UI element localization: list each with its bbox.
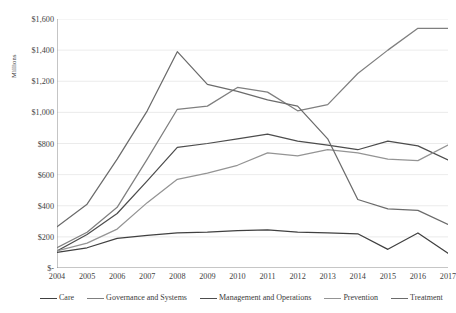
x-axis-tick-label: 2005 [79,272,95,281]
x-axis-tick-label: 2015 [380,272,396,281]
legend-line-swatch [40,298,57,299]
x-axis-tick-labels: 2004200520062007200820092010201120122013… [57,272,448,286]
legend-line-swatch [87,298,104,299]
x-axis-tick-label: 2011 [259,272,275,281]
plot-svg [57,19,448,268]
y-axis-tick-label: $1,200 [6,77,54,86]
y-axis-tick-label: $1,600 [6,15,54,24]
x-axis-tick-label: 2008 [169,272,185,281]
series-line-management-and-operations [57,134,448,251]
y-axis-tick-label: $1,400 [6,46,54,55]
x-axis-tick-label: 2006 [109,272,125,281]
legend-line-swatch [324,298,341,299]
plot-area [57,19,448,268]
legend-item-label: Care [59,293,74,303]
legend-item-label: Governance and Systems [106,293,187,303]
y-axis-tick-label: $400 [6,201,54,210]
x-axis-tick-label: 2004 [49,272,65,281]
chart-legend: CareGovernance and SystemsManagement and… [40,291,420,305]
x-axis-tick-label: 2017 [440,272,456,281]
y-axis-tick-label: $800 [6,139,54,148]
y-axis-tick-labels: $-$200$400$600$800$1,000$1,200$1,400$1,6… [0,19,54,268]
series-line-care [57,230,448,253]
y-axis-tick-label: $- [6,264,54,273]
legend-item-prevention[interactable]: Prevention [324,293,378,303]
x-axis-tick-label: 2010 [229,272,245,281]
legend-item-label: Treatment [410,293,443,303]
y-axis-tick-label: $200 [6,232,54,241]
line-chart: Millions $-$200$400$600$800$1,000$1,200$… [0,0,456,313]
legend-item-care[interactable]: Care [40,293,74,303]
x-axis-tick-label: 2016 [410,272,426,281]
x-axis-tick-label: 2014 [350,272,366,281]
legend-line-swatch [391,298,408,299]
y-axis-tick-label: $600 [6,170,54,179]
legend-line-swatch [200,298,217,299]
x-axis-tick-label: 2012 [289,272,305,281]
legend-item-management-and-operations[interactable]: Management and Operations [200,293,311,303]
legend-item-treatment[interactable]: Treatment [391,293,443,303]
x-axis-tick-label: 2009 [199,272,215,281]
legend-item-label: Prevention [343,293,378,303]
y-axis-tick-label: $1,000 [6,108,54,117]
x-axis-tick-label: 2013 [320,272,336,281]
series-line-treatment [57,52,448,227]
x-axis-tick-label: 2007 [139,272,155,281]
legend-item-governance-and-systems[interactable]: Governance and Systems [87,293,187,303]
legend-item-label: Management and Operations [219,293,311,303]
